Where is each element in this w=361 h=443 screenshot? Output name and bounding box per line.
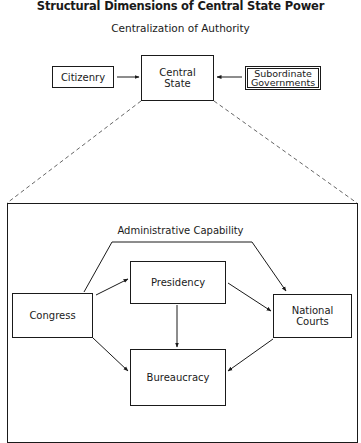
node-label: Presidency xyxy=(151,277,205,288)
node-label: Citizenry xyxy=(61,72,105,83)
node-label: National Courts xyxy=(292,305,334,327)
node-label: Subordinate Governments xyxy=(251,69,315,88)
node-central-state: Central State xyxy=(141,55,214,101)
node-subordinate-governments: Subordinate Governments xyxy=(245,66,321,90)
node-presidency: Presidency xyxy=(130,261,226,304)
node-label: Bureaucracy xyxy=(147,372,210,383)
dashed-expansion-left xyxy=(7,101,141,203)
administrative-capability-label: Administrative Capability xyxy=(0,224,361,237)
node-congress: Congress xyxy=(12,293,93,338)
dashed-expansion-right xyxy=(214,101,357,203)
node-bureaucracy: Bureaucracy xyxy=(130,349,226,406)
node-label: Congress xyxy=(29,310,75,321)
node-national-courts: National Courts xyxy=(273,294,352,338)
node-citizenry: Citizenry xyxy=(52,66,114,88)
node-label: Central State xyxy=(159,67,195,89)
